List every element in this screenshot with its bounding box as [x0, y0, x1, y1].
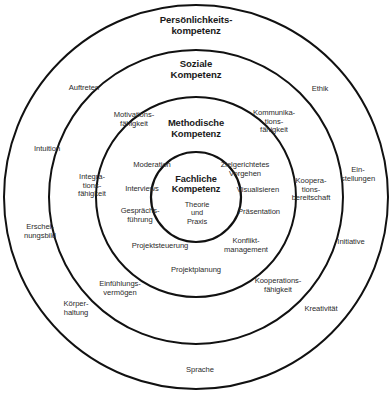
competence-circles-diagram: Persönlichkeits- kompetenz Soziale Kompe… — [0, 0, 392, 406]
concentric-rings — [0, 0, 392, 406]
ring-core-circle — [151, 152, 241, 242]
ring-social-circle — [49, 50, 343, 344]
ring-method-circle — [96, 97, 296, 297]
ring-outer-circle — [4, 5, 388, 389]
